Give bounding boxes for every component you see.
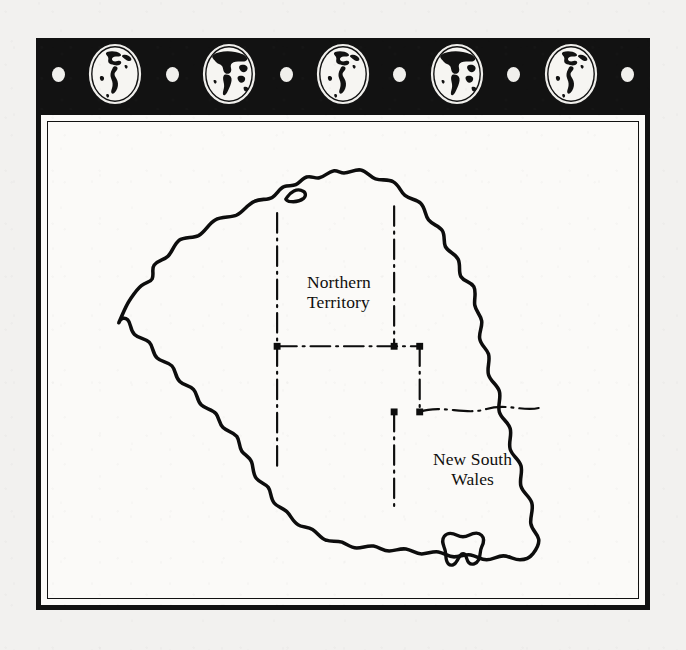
ornament-band [36,38,650,110]
dot-icon [52,67,65,82]
dot-icon [280,67,293,82]
globe-americas-icon [543,43,599,105]
map-label-northern-territory: Northern Territory [307,272,371,313]
border-junction-marks [274,343,423,415]
map-label-new-south-wales: New South Wales [433,449,512,490]
border-qld-nsw [420,407,539,412]
globe-americas-icon [87,43,143,105]
map-plate: Northern Territory New South Wales [36,38,650,610]
globe-eurafrica-icon [429,43,485,105]
map-surface: Northern Territory New South Wales [48,122,638,598]
dot-icon [166,67,179,82]
map-frame-outer: Northern Territory New South Wales [36,110,650,610]
tasmania-island [443,533,484,565]
globe-americas-icon [315,43,371,105]
australia-coastline [286,190,305,202]
map-frame-inner: Northern Territory New South Wales [47,121,639,599]
dot-icon [621,67,634,82]
dot-icon [507,67,520,82]
globe-eurafrica-icon [201,43,257,105]
australia-mainland [119,170,539,560]
band-row [36,38,650,110]
dot-icon [393,67,406,82]
